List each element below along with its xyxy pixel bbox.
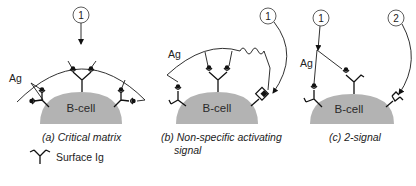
surface-ig-icon — [206, 65, 230, 92]
surface-ig-icon — [29, 87, 49, 107]
surface-ig-icon — [114, 87, 136, 107]
legend: Surface Ig — [30, 150, 104, 164]
surface-ig-icon — [343, 67, 364, 94]
signal-2-receptor — [386, 92, 403, 107]
signal-2-arrow-c — [399, 24, 411, 94]
b-cell-label-a: B-cell — [67, 102, 96, 114]
wavy-linker — [240, 48, 270, 90]
signal-number-c2: 2 — [393, 13, 399, 24]
non-specific-receptor — [251, 87, 268, 106]
b-cell-activation-diagram: B-cell 1 Ag — [0, 0, 416, 186]
signal-number-a: 1 — [78, 10, 84, 21]
panel-a-critical-matrix: B-cell 1 Ag — [9, 7, 145, 143]
caption-a: (a) Critical matrix — [42, 131, 122, 143]
signal-number-c1: 1 — [318, 13, 324, 24]
antigen-label-c: Ag — [300, 57, 313, 69]
surface-ig-icon — [70, 66, 94, 92]
b-cell-label-b: B-cell — [203, 102, 232, 114]
b-cell-label-c: B-cell — [335, 103, 364, 115]
signal-arrow-b — [273, 22, 287, 93]
antigen-label-a: Ag — [9, 72, 22, 84]
caption-c: (c) 2-signal — [329, 131, 382, 143]
signal-1-arrow-c — [318, 26, 320, 50]
caption-b-line1: (b) Non-specific activating — [161, 131, 282, 143]
panel-b-non-specific: B-cell 1 Ag (b) Non-specific activating — [161, 8, 287, 156]
panel-c-2-signal: B-cell 1 2 Ag (c) 2-signal — [300, 10, 411, 143]
caption-b-line2: signal — [174, 144, 202, 156]
signal-number-b: 1 — [265, 11, 271, 22]
surface-ig-icon — [304, 83, 322, 107]
surface-ig-icon — [30, 150, 50, 164]
antigen-label-b: Ag — [168, 48, 181, 60]
legend-label: Surface Ig — [56, 151, 104, 163]
